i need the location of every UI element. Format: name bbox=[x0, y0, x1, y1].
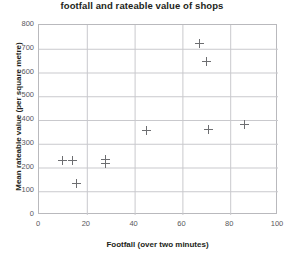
x-tick-label: 60 bbox=[161, 220, 201, 228]
x-axis-title: Footfall (over two minutes) bbox=[38, 240, 277, 249]
x-tick-label: 40 bbox=[114, 220, 154, 228]
scatter-chart: footfall and rateable value of shops 010… bbox=[0, 0, 284, 262]
x-tick-label: 20 bbox=[66, 220, 106, 228]
x-tick-label: 100 bbox=[257, 220, 284, 228]
x-tick-label: 0 bbox=[18, 220, 58, 228]
x-tick-label: 80 bbox=[209, 220, 249, 228]
y-axis-title: Mean rateable value (per square metre) bbox=[14, 17, 23, 217]
x-axis-tick-labels: 020406080100 bbox=[0, 0, 284, 262]
